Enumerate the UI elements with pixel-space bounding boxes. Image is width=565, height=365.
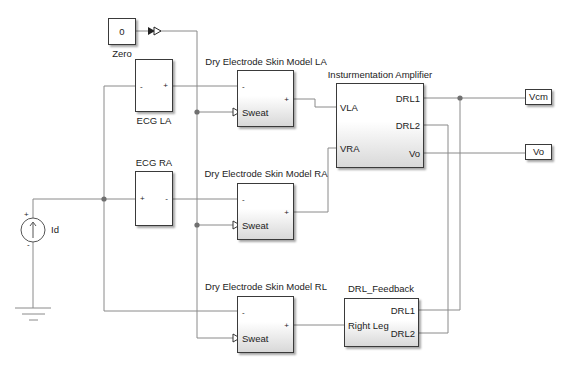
amp-label: Insturmentation Amplifier <box>328 69 433 80</box>
goto-arrow-icon <box>148 27 161 35</box>
wire-ra-to-vra <box>294 148 336 212</box>
dry-rl-port-sweat: Sweat <box>242 334 268 344</box>
instrumentation-amplifier-block[interactable]: DRL1 VLA DRL2 VRA Vo <box>336 83 424 168</box>
wire-drl1-feedback <box>419 98 460 310</box>
drl-feedback-port-right-leg: Right Leg <box>348 321 389 331</box>
ecg-ra-port-plus: + <box>140 194 145 204</box>
vo-goto-block[interactable]: Vo <box>525 144 552 160</box>
dry-rl-label: Dry Electrode Skin Model RL <box>205 281 327 292</box>
wire-la-to-vla <box>294 99 336 107</box>
junction-dot <box>194 109 199 114</box>
drl-feedback-label: DRL_Feedback <box>348 283 414 294</box>
dry-la-label: Dry Electrode Skin Model LA <box>205 56 326 67</box>
id-plus-sign: + <box>24 210 29 220</box>
vcm-label: Vcm <box>526 92 551 102</box>
ecg-ra-label: ECG RA <box>136 157 172 168</box>
amp-port-drl2: DRL2 <box>396 121 420 131</box>
drl-feedback-port-drl2: DRL2 <box>391 329 415 339</box>
ecg-la-port-minus: - <box>140 82 143 92</box>
ecg-la-port-plus: + <box>163 81 168 91</box>
dry-la-port-plus: + <box>284 95 289 105</box>
wire-id-plus <box>33 199 135 218</box>
vo-label: Vo <box>526 147 551 157</box>
amp-port-vra: VRA <box>340 144 360 154</box>
ecg-la-block[interactable]: - + <box>135 59 173 112</box>
junction-dot <box>457 95 462 100</box>
amp-port-vo: Vo <box>409 149 420 159</box>
drl-feedback-block[interactable]: DRL1 Right Leg DRL2 <box>344 298 419 347</box>
dry-ra-port-minus: - <box>242 195 245 205</box>
amp-port-drl1: DRL1 <box>396 94 420 104</box>
junction-dot <box>194 222 199 227</box>
ecg-ra-block[interactable]: + - <box>135 171 173 226</box>
zero-value: 0 <box>109 27 135 37</box>
drl-feedback-port-drl1: DRL1 <box>391 306 415 316</box>
ground-icon <box>15 308 51 320</box>
junction-dot <box>101 196 106 201</box>
ecg-la-label: ECG LA <box>137 115 172 126</box>
id-label: Id <box>51 224 59 235</box>
dry-ra-port-plus: + <box>284 208 289 218</box>
dry-ra-label: Dry Electrode Skin Model RA <box>204 168 327 179</box>
zero-constant-block[interactable]: 0 <box>108 18 136 45</box>
dry-electrode-la-block[interactable]: - + Sweat <box>237 70 294 127</box>
vcm-goto-block[interactable]: Vcm <box>525 89 552 105</box>
current-source-icon <box>21 218 45 242</box>
ecg-ra-port-minus: - <box>165 194 168 204</box>
dry-rl-port-minus: - <box>242 308 245 318</box>
dry-ra-port-sweat: Sweat <box>242 221 268 231</box>
amp-port-vla: VLA <box>340 103 358 113</box>
dry-la-port-sweat: Sweat <box>242 108 268 118</box>
dry-electrode-rl-block[interactable]: - + Sweat <box>237 296 294 353</box>
zero-label: Zero <box>112 48 132 59</box>
id-minus-sign: - <box>27 240 30 250</box>
dry-electrode-ra-block[interactable]: - + Sweat <box>237 183 294 240</box>
dry-rl-port-plus: + <box>284 321 289 331</box>
dry-la-port-minus: - <box>242 82 245 92</box>
